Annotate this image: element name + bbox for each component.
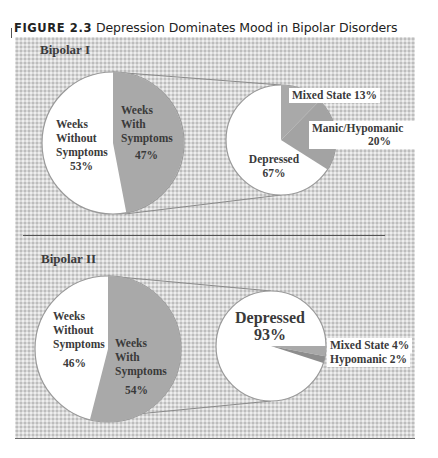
label-mixed-state-1: Mixed State 13% <box>289 88 380 103</box>
label-weeks-with-symptoms-2: Weeks With Symptoms 54% <box>115 336 167 397</box>
section-label-bipolar-1: Bipolar I <box>40 42 90 58</box>
label-weeks-without-symptoms-1: Weeks Without Symptoms 53% <box>56 117 112 173</box>
label-mixed-state-2: Mixed State 4% <box>327 338 412 353</box>
label-depressed-1: Depressed 67% <box>238 152 310 180</box>
pie-bipolar2-breakdown <box>216 291 326 401</box>
label-manic-hypomanic-1: Manic/Hypomanic 20% <box>309 121 417 149</box>
section-divider <box>23 235 385 236</box>
label-weeks-without-symptoms-2: Weeks Without Symptoms 46% <box>53 309 105 370</box>
label-weeks-with-symptoms-1: Weeks With Symptoms 47% <box>121 103 173 162</box>
section-label-bipolar-2: Bipolar II <box>41 251 96 267</box>
pie-charts <box>0 0 438 458</box>
label-depressed-2: Depressed 93% <box>230 309 310 343</box>
label-hypomanic-2: Hypomanic 2% <box>327 352 410 367</box>
